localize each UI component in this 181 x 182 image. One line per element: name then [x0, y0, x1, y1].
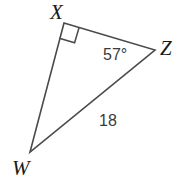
vertex-label-w: W	[12, 158, 30, 179]
side-length-label-wz: 18	[99, 113, 117, 129]
angle-measure-label-z: 57°	[103, 47, 127, 63]
triangle-path	[30, 23, 155, 152]
vertex-label-x: X	[50, 2, 63, 23]
vertex-label-z: Z	[160, 38, 172, 59]
triangle-outline	[30, 23, 155, 152]
geometry-diagram-canvas: X Z W 57° 18	[0, 0, 181, 182]
triangle-figure	[0, 0, 181, 182]
